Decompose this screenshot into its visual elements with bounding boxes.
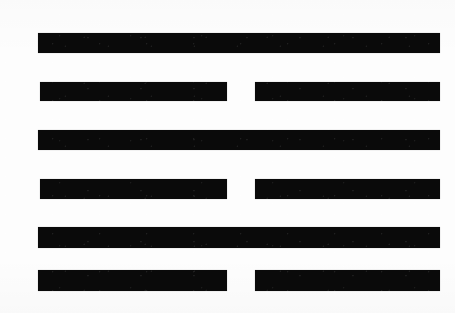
line-segment-right — [255, 179, 440, 199]
line-segment-left — [38, 270, 227, 291]
line-segment-full — [38, 130, 440, 150]
line-segment-left — [40, 179, 227, 199]
line-segment-left — [40, 82, 227, 101]
hexagram-broken-line — [0, 270, 455, 291]
hexagram-broken-line — [0, 179, 455, 199]
hexagram-solid-line — [0, 227, 455, 248]
hexagram-figure — [0, 0, 455, 313]
hexagram-broken-line — [0, 82, 455, 101]
line-segment-right — [255, 82, 440, 101]
line-segment-full — [38, 227, 440, 248]
hexagram-solid-line — [0, 130, 455, 150]
line-segment-full — [38, 33, 440, 53]
line-segment-right — [255, 270, 440, 291]
hexagram-solid-line — [0, 33, 455, 53]
